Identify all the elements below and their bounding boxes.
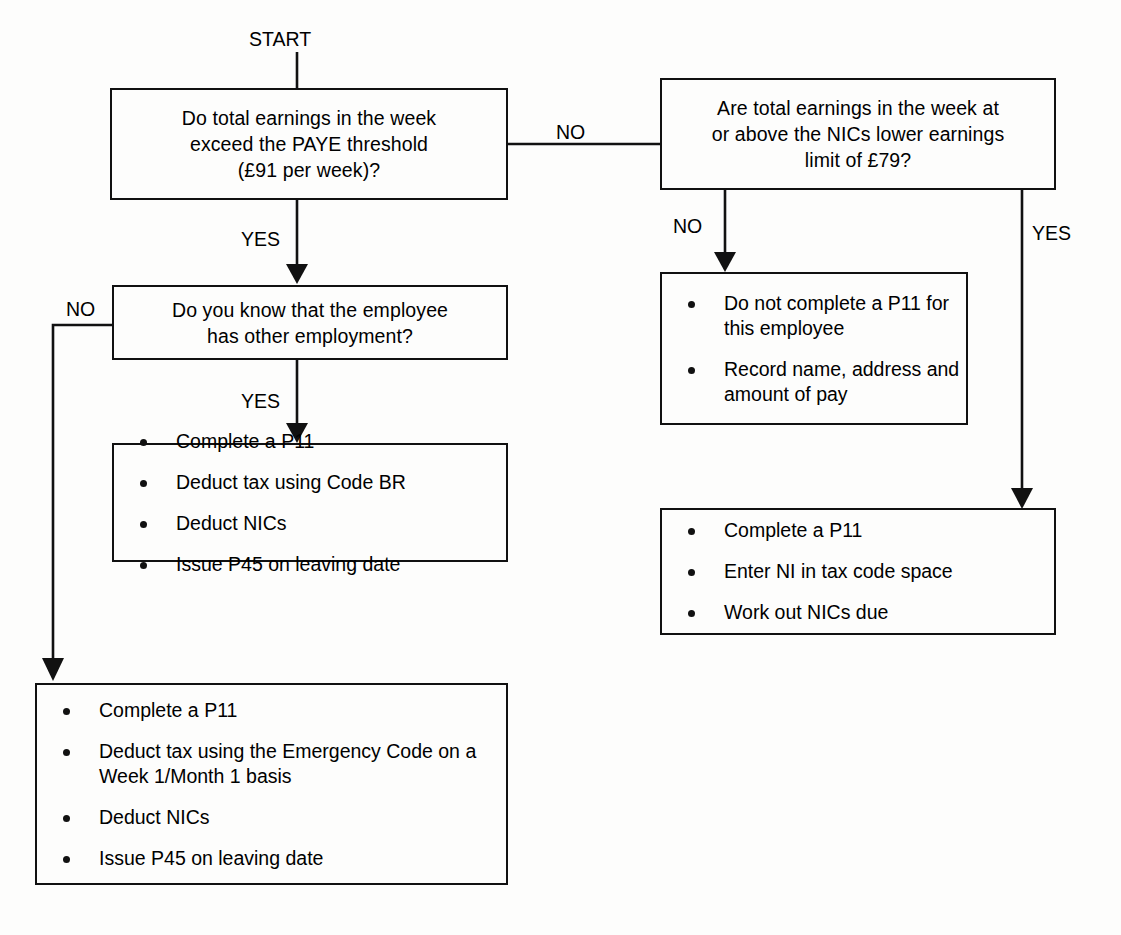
list-item: Enter NI in tax code space xyxy=(662,559,1054,584)
action-emergency-code-bullets: Complete a P11 Deduct tax using the Emer… xyxy=(37,698,506,871)
list-item-text: Deduct NICs xyxy=(176,512,287,534)
wire-other-employment-no xyxy=(53,325,112,662)
action-code-br-bullets: Complete a P11 Deduct tax using Code BR … xyxy=(114,429,506,577)
decision-other-employment[interactable]: Do you know that the employee has other … xyxy=(112,285,508,360)
list-item-text: Complete a P11 xyxy=(99,699,237,721)
list-item: Complete a P11 xyxy=(114,429,506,454)
decision-nics-lel-line-3: limit of £79? xyxy=(805,147,911,173)
decision-paye-threshold-line-3: (£91 per week)? xyxy=(238,157,380,183)
decision-other-employment-line-1: Do you know that the employee xyxy=(172,297,448,323)
bullet-dot-icon xyxy=(63,856,70,863)
decision-other-employment-line-2: has other employment? xyxy=(207,323,413,349)
bullet-dot-icon xyxy=(63,708,70,715)
bullet-dot-icon xyxy=(140,562,147,569)
list-item-text: Deduct tax using Code BR xyxy=(176,471,406,493)
bullet-dot-icon xyxy=(140,480,147,487)
edge-label-lel-no: NO xyxy=(673,215,702,237)
edge-label-other-employment-yes: YES xyxy=(241,390,280,412)
list-item-text: Do not complete a P11 for this employee xyxy=(724,292,949,339)
edge-label-lel-yes: YES xyxy=(1032,222,1071,244)
arrowhead-paye-yes xyxy=(286,264,308,284)
list-item: Issue P45 on leaving date xyxy=(37,846,506,871)
list-item-text: Issue P45 on leaving date xyxy=(176,553,400,575)
list-item: Work out NICs due xyxy=(662,600,1054,625)
list-item: Complete a P11 xyxy=(662,518,1054,543)
list-item: Deduct tax using Code BR xyxy=(114,470,506,495)
list-item-text: Complete a P11 xyxy=(724,519,862,541)
decision-nics-lower-earnings-limit[interactable]: Are total earnings in the week at or abo… xyxy=(660,78,1056,190)
arrowhead-other-employment-no xyxy=(42,658,64,681)
edge-label-paye-no: NO xyxy=(556,121,585,143)
list-item-text: Issue P45 on leaving date xyxy=(99,847,323,869)
action-no-p11[interactable]: Do not complete a P11 for this employee … xyxy=(660,272,968,425)
bullet-dot-icon xyxy=(140,439,147,446)
list-item: Deduct NICs xyxy=(114,511,506,536)
start-label: START xyxy=(249,28,311,50)
bullet-dot-icon xyxy=(688,301,695,308)
list-item-text: Complete a P11 xyxy=(176,430,314,452)
list-item: Complete a P11 xyxy=(37,698,506,723)
bullet-dot-icon xyxy=(688,528,695,535)
bullet-dot-icon xyxy=(688,367,695,374)
list-item-text: Work out NICs due xyxy=(724,601,888,623)
list-item: Issue P45 on leaving date xyxy=(114,552,506,577)
arrowhead-lel-yes xyxy=(1011,488,1033,509)
bullet-dot-icon xyxy=(688,610,695,617)
bullet-dot-icon xyxy=(63,749,70,756)
decision-paye-threshold-line-1: Do total earnings in the week xyxy=(182,105,436,131)
list-item-text: Deduct NICs xyxy=(99,806,210,828)
list-item: Do not complete a P11 for this employee xyxy=(662,291,966,341)
action-code-br[interactable]: Complete a P11 Deduct tax using Code BR … xyxy=(112,443,508,562)
list-item: Deduct tax using the Emergency Code on a… xyxy=(37,739,506,789)
action-ni-code[interactable]: Complete a P11 Enter NI in tax code spac… xyxy=(660,508,1056,635)
decision-paye-threshold[interactable]: Do total earnings in the week exceed the… xyxy=(110,88,508,200)
list-item-text: Deduct tax using the Emergency Code on a… xyxy=(99,740,476,787)
list-item-text: Enter NI in tax code space xyxy=(724,560,953,582)
flowchart-canvas: START Do total earnings in the week exce… xyxy=(0,0,1121,935)
action-emergency-code[interactable]: Complete a P11 Deduct tax using the Emer… xyxy=(35,683,508,885)
action-ni-code-bullets: Complete a P11 Enter NI in tax code spac… xyxy=(662,518,1054,625)
decision-nics-lel-line-1: Are total earnings in the week at xyxy=(717,95,999,121)
edge-label-paye-yes: YES xyxy=(241,228,280,250)
decision-nics-lel-line-2: or above the NICs lower earnings xyxy=(712,121,1005,147)
decision-paye-threshold-line-2: exceed the PAYE threshold xyxy=(190,131,428,157)
list-item: Deduct NICs xyxy=(37,805,506,830)
edge-label-other-employment-no: NO xyxy=(66,298,95,320)
action-no-p11-bullets: Do not complete a P11 for this employee … xyxy=(662,291,966,407)
bullet-dot-icon xyxy=(140,521,147,528)
arrowhead-lel-no xyxy=(714,252,736,272)
bullet-dot-icon xyxy=(688,569,695,576)
bullet-dot-icon xyxy=(63,815,70,822)
list-item: Record name, address and amount of pay xyxy=(662,357,966,407)
list-item-text: Record name, address and amount of pay xyxy=(724,358,959,405)
